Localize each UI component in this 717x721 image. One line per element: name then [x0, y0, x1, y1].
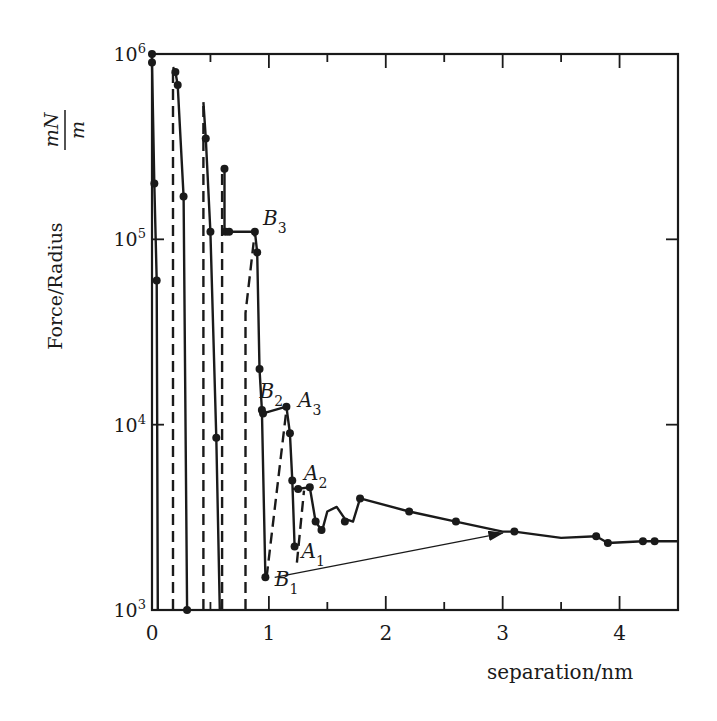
force-separation-chart: 01234103104105106 B3B2A3A2A1B1 separatio… [0, 0, 717, 721]
data-point [510, 528, 518, 536]
data-point [639, 537, 647, 545]
y-tick-label: 103 [114, 597, 146, 621]
series-line [322, 498, 679, 543]
data-point [291, 543, 299, 551]
data-point [405, 507, 413, 515]
tick-labels: 01234103104105106 [114, 41, 626, 645]
y-axis-unit: mN m [40, 110, 88, 150]
y-tick-label: 104 [114, 412, 146, 436]
data-point [251, 228, 259, 236]
data-point [604, 539, 612, 547]
data-point [256, 365, 264, 373]
data-point [171, 68, 179, 76]
x-tick-label: 1 [263, 621, 276, 645]
series-line [246, 232, 255, 610]
data-point [651, 537, 659, 545]
y-unit-denominator: m [66, 121, 88, 139]
plot-frame [152, 54, 678, 610]
annotation-label: A1 [300, 539, 325, 569]
x-tick-label: 4 [613, 621, 626, 645]
series-line [203, 102, 219, 610]
x-tick-label: 2 [379, 621, 392, 645]
data-point [592, 532, 600, 540]
data-point [341, 518, 349, 526]
data-point [282, 403, 290, 411]
data-point [180, 193, 188, 201]
data-point [148, 50, 156, 58]
data-point [212, 434, 220, 442]
data-point [259, 409, 267, 417]
data-point [261, 573, 269, 581]
data-point [150, 180, 158, 188]
data-point [202, 134, 210, 142]
data-markers [148, 50, 659, 614]
data-point [317, 526, 325, 534]
data-point [153, 276, 161, 284]
y-tick-label: 105 [114, 226, 146, 250]
data-point [286, 429, 294, 437]
annotation-label: A3 [296, 388, 321, 418]
axis-ticks [152, 54, 678, 610]
x-tick-label: 3 [496, 621, 509, 645]
plot-border [152, 54, 678, 610]
annotation-label: B3 [262, 206, 287, 236]
data-point [220, 165, 228, 173]
data-point [174, 81, 182, 89]
data-point [356, 494, 364, 502]
data-point [206, 228, 214, 236]
series-line [173, 67, 187, 610]
data-point [452, 518, 460, 526]
series-line [267, 410, 287, 577]
data-point [288, 476, 296, 484]
y-axis-label: Force/Radius [44, 222, 66, 349]
data-point [253, 248, 261, 256]
data-point [225, 228, 233, 236]
series-line [263, 407, 295, 547]
data-point [312, 518, 320, 526]
data-point [183, 606, 191, 614]
data-point [294, 485, 302, 493]
annotation-label: B1 [274, 567, 299, 597]
data-series [152, 54, 678, 610]
data-point [148, 58, 156, 66]
x-axis-label: separation/nm [487, 660, 633, 684]
point-annotations: B3B2A3A2A1B1 [259, 206, 328, 597]
y-unit-numerator: mN [40, 111, 62, 147]
y-tick-label: 106 [114, 41, 146, 65]
y-axis-label-group: Force/Radius [44, 222, 66, 349]
x-tick-label: 0 [146, 621, 159, 645]
